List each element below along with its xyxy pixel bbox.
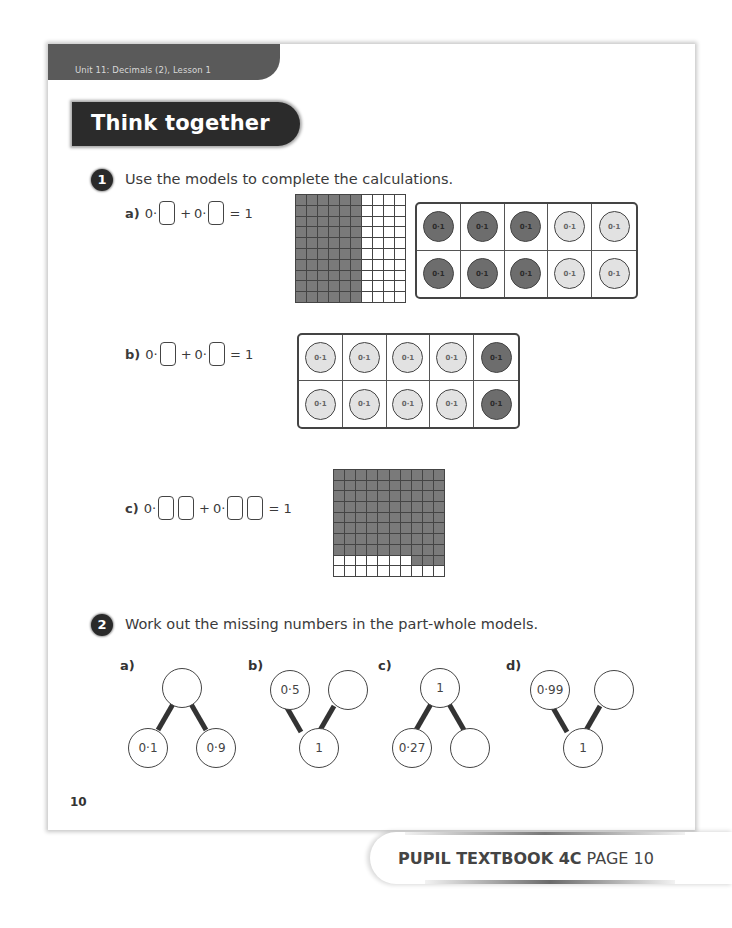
place-value-counter: 0·1 — [305, 342, 336, 373]
grid-cell — [356, 513, 366, 523]
grid-cell — [340, 206, 350, 216]
grid-cell — [307, 238, 317, 248]
grid-cell — [412, 534, 422, 544]
grid-cell — [356, 523, 366, 533]
footer-decor-line — [425, 880, 675, 884]
grid-cell — [307, 260, 317, 270]
grid-cell — [412, 481, 422, 491]
grid-cell — [307, 195, 317, 205]
grid-cell — [367, 523, 377, 533]
answer-box[interactable] — [158, 496, 174, 520]
part-label: c) — [125, 501, 139, 516]
grid-cell — [318, 249, 328, 259]
part-whole-b: b) 0·5 1 — [248, 658, 368, 778]
part-circle: 0·99 — [530, 670, 570, 710]
grid-cell — [395, 217, 405, 227]
textbook-page: Unit 11: Decimals (2), Lesson 1 Think to… — [48, 44, 695, 830]
grid-cell — [329, 238, 339, 248]
decimal-prefix: 0· — [213, 501, 225, 516]
decimal-prefix: 0· — [194, 206, 206, 221]
part-circle[interactable] — [594, 670, 634, 710]
ten-frame-cell: 0·1 — [417, 251, 461, 298]
grid-cell — [356, 470, 366, 480]
grid-cell — [296, 195, 306, 205]
question-1-badge: 1 — [91, 169, 113, 191]
ten-frame-cell: 0·1 — [461, 204, 505, 251]
book-label: PUPIL TEXTBOOK 4C — [398, 849, 582, 868]
grid-cell — [340, 195, 350, 205]
grid-cell — [356, 491, 366, 501]
grid-cell — [384, 227, 394, 237]
grid-cell — [340, 281, 350, 291]
grid-cell — [390, 556, 400, 566]
place-value-counter: 0·1 — [436, 342, 467, 373]
grid-cell — [434, 470, 444, 480]
grid-cell — [401, 523, 411, 533]
grid-cell — [390, 481, 400, 491]
grid-cell — [345, 491, 355, 501]
footer-decor-line — [405, 832, 685, 835]
whole-circle[interactable] — [162, 668, 202, 708]
part-whole-c: c) 1 0·27 — [378, 658, 498, 778]
grid-cell — [345, 523, 355, 533]
question-1-instruction: Use the models to complete the calculati… — [125, 171, 453, 187]
grid-cell — [390, 523, 400, 533]
model-label: b) — [248, 658, 263, 673]
grid-cell — [401, 545, 411, 555]
grid-cell — [329, 249, 339, 259]
plus-sign: + — [180, 206, 191, 221]
grid-cell — [307, 271, 317, 281]
part-circle: 0·5 — [270, 670, 310, 710]
answer-box[interactable] — [227, 496, 243, 520]
place-value-counter: 0·1 — [554, 258, 585, 289]
answer-box[interactable] — [209, 342, 225, 366]
grid-cell — [362, 217, 372, 227]
grid-cell — [412, 545, 422, 555]
place-value-counter: 0·1 — [599, 211, 630, 242]
grid-cell — [351, 260, 361, 270]
grid-cell — [345, 566, 355, 576]
answer-box[interactable] — [247, 496, 263, 520]
grid-cell — [434, 481, 444, 491]
part-circle[interactable] — [328, 670, 368, 710]
grid-cell — [395, 271, 405, 281]
grid-cell — [395, 227, 405, 237]
part-circle[interactable] — [450, 728, 490, 768]
grid-cell — [378, 545, 388, 555]
grid-cell — [423, 566, 433, 576]
grid-cell — [351, 217, 361, 227]
grid-cell — [329, 271, 339, 281]
grid-cell — [395, 195, 405, 205]
answer-box[interactable] — [159, 201, 175, 225]
grid-cell — [423, 491, 433, 501]
grid-cell — [367, 491, 377, 501]
grid-cell — [373, 292, 383, 302]
grid-cell — [373, 281, 383, 291]
grid-cell — [367, 534, 377, 544]
part-label: a) — [125, 206, 140, 221]
ten-frame-cell: 0·1 — [430, 335, 474, 381]
part-label: b) — [125, 347, 140, 362]
grid-cell — [367, 481, 377, 491]
grid-cell — [340, 292, 350, 302]
grid-cell — [296, 206, 306, 216]
ten-frame-cell: 0·1 — [505, 204, 549, 251]
grid-cell — [356, 566, 366, 576]
whole-circle: 1 — [563, 728, 603, 768]
grid-cell — [367, 470, 377, 480]
answer-box[interactable] — [160, 342, 176, 366]
section-title-banner: Think together — [72, 102, 300, 146]
grid-cell — [340, 238, 350, 248]
answer-box[interactable] — [178, 496, 194, 520]
grid-cell — [395, 238, 405, 248]
grid-cell — [296, 260, 306, 270]
grid-cell — [373, 260, 383, 270]
grid-cell — [351, 281, 361, 291]
grid-cell — [307, 217, 317, 227]
grid-cell — [434, 534, 444, 544]
grid-cell — [334, 566, 344, 576]
calc-c: c) 0· + 0· = 1 — [125, 496, 295, 520]
answer-box[interactable] — [208, 201, 224, 225]
grid-cell — [412, 491, 422, 501]
ten-frame-cell: 0·1 — [592, 204, 636, 251]
